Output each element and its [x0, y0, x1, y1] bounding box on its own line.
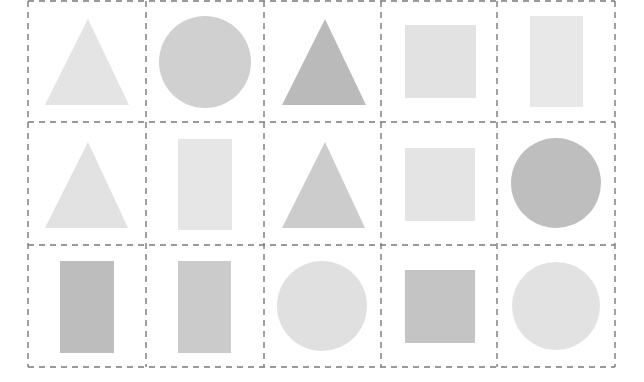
rectangle-shape-r2c2	[178, 139, 232, 230]
rectangle-shape-r3c1	[60, 261, 114, 353]
circle-shape-r1c2	[159, 16, 251, 108]
triangle-shape-r1c3	[282, 19, 366, 105]
circle-shape-r3c5	[512, 262, 600, 350]
triangle-shape-r2c3	[282, 142, 365, 228]
rectangle-shape-r3c2	[178, 261, 231, 353]
triangle-shape-r1c1	[45, 19, 129, 105]
shape-grid	[0, 0, 644, 382]
circle-shape-r3c3	[277, 261, 367, 351]
rectangle-shape-r1c5	[530, 16, 583, 107]
square-shape-r3c4	[405, 270, 475, 343]
square-shape-r2c4	[405, 148, 475, 221]
shapes-layer	[45, 16, 601, 353]
square-shape-r1c4	[405, 25, 476, 98]
circle-shape-r2c5	[511, 138, 601, 228]
triangle-shape-r2c1	[45, 142, 128, 228]
